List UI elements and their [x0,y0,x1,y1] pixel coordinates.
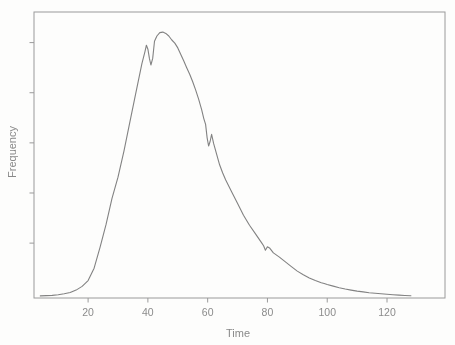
curve-layer [40,32,411,296]
x-tick-label: 60 [202,306,214,318]
x-axis-title: Time [226,327,250,339]
density-plot-figure: 20406080100120 Time Frequency [0,0,455,345]
x-tick-label: 100 [318,306,336,318]
chart-canvas: 20406080100120 Time Frequency [0,0,455,345]
x-tick-label: 20 [82,306,94,318]
x-tick-label: 120 [378,306,396,318]
plot-box [34,12,445,298]
frequency-density-curve [40,32,411,296]
y-axis-title: Frequency [6,126,18,178]
x-tick-label: 80 [262,306,274,318]
x-tick-label: 40 [142,306,154,318]
